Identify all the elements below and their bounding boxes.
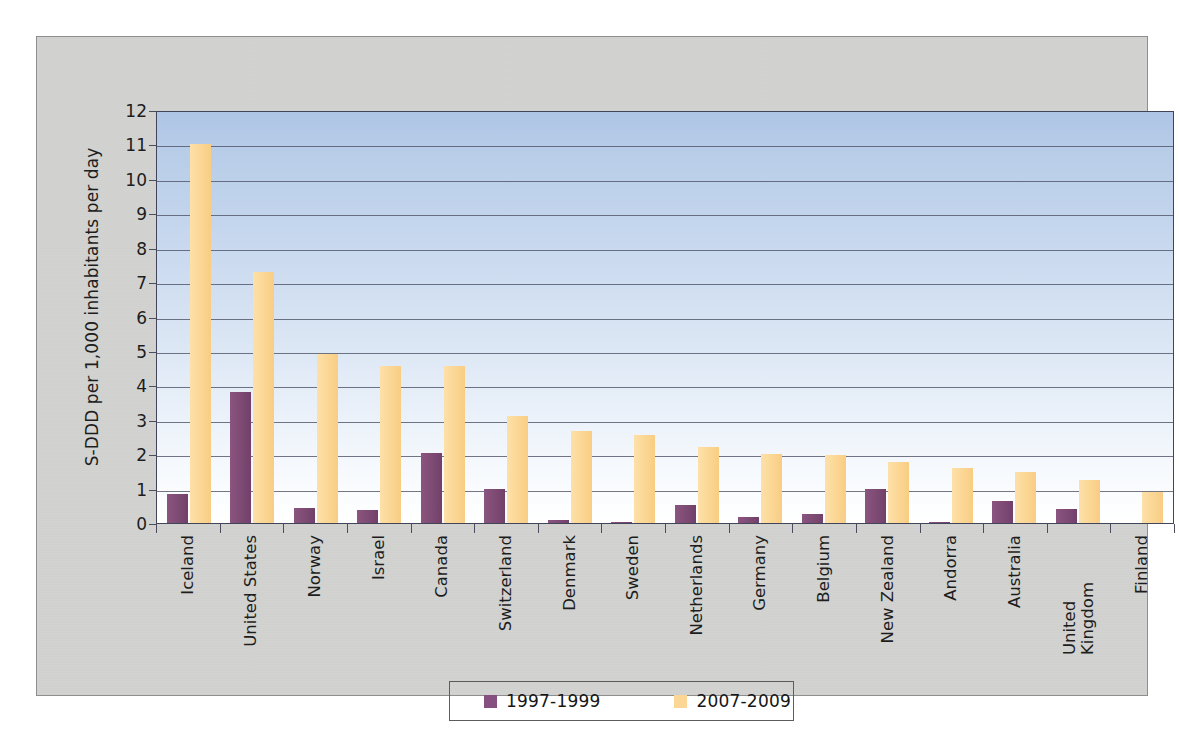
x-axis-label-cell: Finland [1110, 535, 1174, 655]
x-axis-tick-mark [1110, 524, 1111, 533]
bar-1997-1999 [421, 453, 442, 523]
bar-group [729, 112, 793, 523]
bar-group [792, 112, 856, 523]
x-axis-category-label: Netherlands [688, 535, 706, 636]
bar-2007-2009 [507, 416, 528, 523]
y-axis-tick-mark [149, 214, 156, 215]
bar-1997-1999 [738, 517, 759, 523]
y-axis-tick-label: 8 [113, 239, 147, 259]
y-axis-tick-mark [149, 352, 156, 353]
y-axis-tick-label: 1 [113, 480, 147, 500]
bar-2007-2009 [380, 366, 401, 523]
bar-2007-2009 [190, 144, 211, 523]
x-axis-category-label: United States [242, 535, 260, 647]
bar-2007-2009 [952, 468, 973, 523]
y-axis-tick-label: 4 [113, 376, 147, 396]
y-axis-title: S-DDD per 1,000 inhabitants per day [77, 97, 107, 517]
x-axis-label-cell: Denmark [538, 535, 602, 655]
y-axis-tick-mark [149, 524, 156, 525]
x-axis-category-label: Australia [1006, 535, 1024, 608]
x-axis-tick-mark [411, 524, 412, 533]
bar-group [411, 112, 475, 523]
y-axis-tick-label: 2 [113, 445, 147, 465]
bar-1997-1999 [230, 392, 251, 523]
bar-1997-1999 [992, 501, 1013, 523]
y-axis-tick-mark [149, 318, 156, 319]
bar-group [919, 112, 983, 523]
y-axis-tick-mark [149, 249, 156, 250]
bar-2007-2009 [253, 272, 274, 523]
bar-1997-1999 [484, 489, 505, 523]
bar-group [665, 112, 729, 523]
bar-1997-1999 [929, 522, 950, 523]
y-axis-tick-mark [149, 180, 156, 181]
bar-2007-2009 [825, 455, 846, 523]
y-axis-tick-mark [149, 386, 156, 387]
legend-item-1997-1999: 1997-1999 [484, 691, 600, 711]
x-axis-tick-mark [856, 524, 857, 533]
x-axis-label-cell: UnitedKingdom [1047, 535, 1111, 655]
bar-group [983, 112, 1047, 523]
bar-1997-1999 [548, 520, 569, 523]
y-axis-tick-mark [149, 490, 156, 491]
y-axis-tick-mark [149, 145, 156, 146]
x-axis-category-label: Sweden [624, 535, 642, 600]
x-axis-category-labels: IcelandUnited StatesNorwayIsraelCanadaSw… [156, 535, 1174, 655]
x-axis-tick-mark [601, 524, 602, 533]
bar-group [284, 112, 348, 523]
bar-group [1110, 112, 1174, 523]
x-axis-label-cell: Australia [983, 535, 1047, 655]
x-axis-tick-mark [729, 524, 730, 533]
bar-1997-1999 [675, 505, 696, 523]
y-axis-tick-mark [149, 111, 156, 112]
x-axis-category-label: Germany [751, 535, 769, 611]
legend-swatch-icon-1997-1999 [484, 695, 497, 708]
bar-1997-1999 [357, 510, 378, 523]
x-axis-category-label: Denmark [561, 535, 579, 611]
y-axis-tick-label: 6 [113, 308, 147, 328]
x-axis-category-label: Switzerland [497, 535, 515, 631]
x-axis-label-cell: Switzerland [474, 535, 538, 655]
x-axis-tick-mark [792, 524, 793, 533]
y-axis-tick-label: 0 [113, 514, 147, 534]
bar-group [602, 112, 666, 523]
x-axis-tick-mark [283, 524, 284, 533]
legend-label-2007-2009: 2007-2009 [696, 691, 790, 711]
x-axis-category-label: Andorra [942, 535, 960, 601]
x-axis-category-label: Iceland [179, 535, 197, 595]
x-axis-tick-mark [1047, 524, 1048, 533]
y-axis-tick-label: 5 [113, 342, 147, 362]
x-axis-tick-mark [920, 524, 921, 533]
bar-1997-1999 [611, 522, 632, 523]
x-axis-tick-mark [156, 524, 157, 533]
bar-2007-2009 [571, 431, 592, 523]
x-axis-tick-mark [983, 524, 984, 533]
y-axis-tick-mark [149, 455, 156, 456]
y-axis-tick-label: 9 [113, 204, 147, 224]
y-axis-tick-label: 3 [113, 411, 147, 431]
bar-1997-1999 [1056, 509, 1077, 523]
plot-area [156, 111, 1174, 524]
scanned-chart-page: S-DDD per 1,000 inhabitants per day 0123… [0, 0, 1179, 731]
bar-2007-2009 [444, 366, 465, 523]
legend-swatch-icon-2007-2009 [674, 695, 687, 708]
x-axis-tick-mark [220, 524, 221, 533]
x-axis-label-cell: Sweden [601, 535, 665, 655]
bar-group [856, 112, 920, 523]
x-axis-category-label: Israel [370, 535, 388, 580]
x-axis-category-label: Finland [1133, 535, 1151, 594]
x-axis-label-cell: Netherlands [665, 535, 729, 655]
x-axis-category-label: UnitedKingdom [1061, 535, 1097, 655]
bar-1997-1999 [294, 508, 315, 523]
y-axis-tick-mark [149, 421, 156, 422]
bar-series-container [157, 112, 1173, 523]
y-axis-tick-mark [149, 283, 156, 284]
chart-panel: S-DDD per 1,000 inhabitants per day 0123… [36, 36, 1148, 696]
bar-2007-2009 [1079, 480, 1100, 523]
bar-2007-2009 [761, 454, 782, 523]
bar-1997-1999 [167, 494, 188, 523]
bar-2007-2009 [1015, 472, 1036, 523]
x-axis-tick-mark [474, 524, 475, 533]
bar-group [538, 112, 602, 523]
x-axis-category-label: New Zealand [879, 535, 897, 643]
